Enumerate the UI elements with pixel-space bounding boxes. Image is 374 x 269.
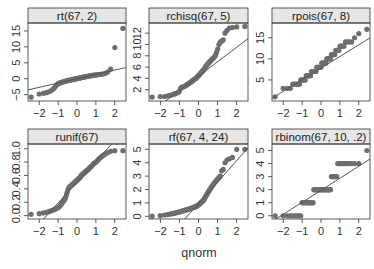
x-tick-label: 1: [93, 107, 99, 119]
y-tick-label: 2: [131, 186, 143, 192]
panel-title: rbinom(67, 10, .2): [276, 131, 367, 143]
data-point: [221, 167, 226, 172]
x-tick-label: 0: [74, 225, 80, 237]
y-tick-label: 8: [131, 53, 143, 59]
data-point: [234, 24, 239, 29]
x-tick-label: −2: [33, 107, 46, 119]
data-point: [334, 174, 339, 179]
x-tick-label: 1: [337, 225, 343, 237]
data-point: [112, 148, 117, 153]
x-tick-label: −2: [277, 107, 290, 119]
x-tick-label: 0: [74, 107, 80, 119]
data-point: [215, 46, 220, 51]
x-tick-label: −2: [277, 225, 290, 237]
y-tick-label: 4: [131, 75, 143, 81]
data-point: [112, 45, 117, 50]
y-tick-label: 4: [254, 161, 266, 167]
data-point: [150, 94, 155, 99]
x-tick-label: 2: [356, 225, 362, 237]
qq-plot-canvas: rt(67, 2)−2−1012−5051015rchisq(67, 5)−2−…: [0, 0, 374, 269]
data-point: [120, 26, 125, 31]
x-tick-label: 1: [214, 225, 220, 237]
data-point: [120, 148, 125, 153]
panel-4: runif(67)−2−10120.00.20.40.60.81.0: [10, 128, 126, 237]
y-tick-label: 10: [254, 53, 266, 65]
y-tick-label: 5: [254, 147, 266, 153]
data-point: [310, 200, 315, 205]
x-tick-label: 0: [318, 225, 324, 237]
data-point: [29, 212, 34, 217]
x-tick-label: −1: [52, 107, 65, 119]
y-tick-label: 3: [131, 173, 143, 179]
x-tick-label: −2: [154, 225, 167, 237]
x-tick-label: −1: [296, 107, 309, 119]
x-tick-label: −2: [154, 107, 167, 119]
data-point: [364, 27, 369, 32]
x-tick-label: −1: [52, 225, 65, 237]
x-tick-label: 2: [234, 225, 240, 237]
x-tick-label: −2: [33, 225, 46, 237]
x-tick-label: 1: [214, 107, 220, 119]
reference-line: [28, 68, 126, 90]
panel-1: rt(67, 2)−2−1012−5051015: [10, 8, 126, 119]
panel-title: rf(67, 4, 24): [169, 131, 229, 143]
x-axis-label: qnorm: [181, 246, 216, 260]
panel-title: rchisq(67, 5): [167, 10, 231, 22]
panel-title: rt(67, 2): [57, 10, 97, 22]
data-point: [364, 148, 369, 153]
x-tick-label: 2: [112, 107, 118, 119]
y-tick-label: 2: [131, 87, 143, 93]
y-tick-label: 4: [131, 160, 143, 166]
panel-3: rpois(67, 8)−2−101251015: [254, 8, 370, 119]
x-tick-label: −1: [296, 225, 309, 237]
y-tick-label: 0: [10, 76, 22, 82]
x-tick-label: 1: [93, 225, 99, 237]
data-point: [218, 174, 223, 179]
reference-line: [272, 159, 370, 221]
data-point: [298, 213, 303, 218]
panel-frame: [28, 23, 126, 101]
y-tick-label: 0: [131, 213, 143, 219]
y-tick-label: 5: [10, 60, 22, 66]
panel-6: rbinom(67, 10, .2)−2−1012012345: [254, 129, 370, 237]
x-tick-label: 0: [195, 225, 201, 237]
data-point: [328, 187, 333, 192]
panel-frame: [149, 23, 248, 101]
data-point: [349, 39, 354, 44]
data-point: [356, 31, 361, 36]
y-tick-label: 1: [131, 200, 143, 206]
y-tick-label: 2: [254, 187, 266, 193]
data-point: [234, 147, 239, 152]
data-point: [242, 24, 247, 29]
data-point: [230, 155, 235, 160]
y-tick-label: 6: [131, 64, 143, 70]
panel-title: runif(67): [56, 131, 99, 143]
x-tick-label: −1: [173, 225, 186, 237]
qq-plot-figure: rt(67, 2)−2−1012−5051015rchisq(67, 5)−2−…: [0, 0, 374, 269]
y-tick-label: 0: [254, 213, 266, 219]
data-point: [150, 213, 155, 218]
panel-frame: [272, 144, 370, 219]
x-tick-label: 0: [318, 107, 324, 119]
y-tick-label: 3: [254, 174, 266, 180]
data-point: [273, 213, 278, 218]
panel-title: rpois(67, 8): [292, 10, 350, 22]
panel-5: rf(67, 4, 24)−2−1012012345: [131, 129, 248, 259]
data-point: [221, 37, 226, 42]
x-tick-label: 1: [337, 107, 343, 119]
y-tick-label: 15: [10, 25, 22, 37]
data-point: [29, 95, 34, 100]
x-tick-label: 2: [112, 225, 118, 237]
y-tick-label: 12: [131, 27, 143, 39]
panel-2: rchisq(67, 5)−2−101224681012: [131, 8, 248, 119]
x-tick-label: 2: [356, 107, 362, 119]
y-tick-label: 15: [254, 32, 266, 44]
y-tick-label: 1.0: [10, 141, 22, 156]
x-tick-label: 2: [234, 107, 240, 119]
y-tick-label: 1: [254, 200, 266, 206]
data-point: [352, 35, 357, 40]
y-tick-label: 10: [10, 41, 22, 53]
x-tick-label: 0: [195, 107, 201, 119]
y-tick-label: 5: [131, 146, 143, 152]
y-tick-label: −5: [10, 88, 22, 101]
